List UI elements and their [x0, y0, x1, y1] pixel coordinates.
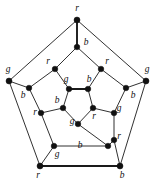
graph-edge	[77, 20, 146, 81]
vertex-color-label: b	[87, 74, 92, 84]
graph-vertex	[123, 85, 129, 91]
graph-edge	[41, 108, 63, 113]
vertex-color-label: g	[64, 74, 69, 84]
vertex-color-label: g	[117, 103, 122, 113]
vertex-color-label: b	[78, 140, 83, 150]
graph-edge	[9, 20, 77, 81]
vertex-color-label: r	[92, 111, 96, 121]
graph-vertex	[52, 66, 58, 72]
graph-edge	[93, 108, 114, 113]
vertex-color-label: g	[55, 149, 60, 159]
graph-vertex	[98, 66, 104, 72]
vertex-color-label: r	[75, 3, 79, 13]
graph-edge	[41, 113, 54, 146]
vertex-color-label: g	[70, 116, 75, 126]
graph-vertex	[6, 78, 12, 84]
graph-vertex	[74, 17, 80, 23]
vertex-color-label: r	[105, 56, 109, 66]
graph-vertex	[111, 137, 117, 143]
graph-vertex	[37, 163, 43, 169]
graph-vertex	[66, 86, 72, 92]
vertex-color-label: b	[84, 37, 89, 47]
graph-edge	[55, 47, 77, 69]
graph-edge	[101, 69, 126, 88]
graph-figure: rggrbbbbgbrrrgrgbbrg	[0, 0, 154, 182]
graph-edge	[29, 69, 55, 88]
vertex-color-label: g	[6, 64, 11, 74]
vertex-color-label: b	[131, 90, 136, 100]
graph-vertex	[60, 105, 66, 111]
graph-edge	[77, 47, 101, 69]
graph-vertex	[75, 121, 81, 127]
graph-vertex	[85, 86, 91, 92]
graph-vertex	[117, 163, 123, 169]
graph-vertex	[38, 110, 44, 116]
vertex-color-label: r	[46, 56, 50, 66]
vertex-color-label: b	[55, 95, 60, 105]
vertex-color-label: r	[33, 107, 37, 117]
graph-vertex	[26, 85, 32, 91]
graph-edge	[78, 108, 93, 124]
graph-vertex	[51, 143, 57, 149]
vertex-color-label: g	[145, 64, 150, 74]
vertex-color-label: r	[117, 131, 121, 141]
graph-vertex	[105, 143, 111, 149]
graph-edge	[114, 140, 120, 166]
vertex-color-label: b	[21, 90, 26, 100]
graph-edge	[78, 124, 108, 146]
graph-canvas: rggrbbbbgbrrrgrgbbrg	[0, 0, 154, 182]
vertex-color-label: r	[36, 170, 40, 180]
graph-vertex	[143, 78, 149, 84]
graph-vertex	[74, 44, 80, 50]
vertex-color-label: b	[120, 170, 125, 180]
graph-edge	[40, 146, 54, 166]
graph-vertex	[90, 105, 96, 111]
